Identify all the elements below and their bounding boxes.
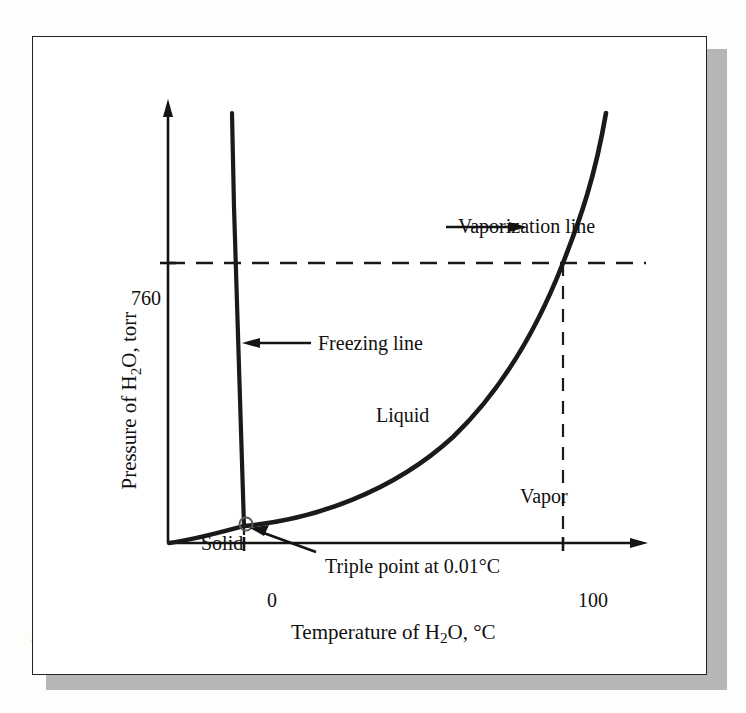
x-axis-arrowhead [630,538,648,548]
x-tick-label-100: 100 [578,589,608,612]
y-axis-title-subscript: 2 [128,368,144,376]
freezing-curve [232,113,244,526]
region-label-solid: Solid [201,532,243,555]
y-axis-title: Pressure of H2O, torr [117,291,144,511]
x-tick-label-0: 0 [267,589,277,612]
annotation-label-triple-point: Triple point at 0.01°C [325,555,500,578]
y-axis-title-suffix: O, torr [117,312,141,368]
x-axis-title-subscript: 2 [440,630,448,646]
x-axis-title-suffix: O, °C [448,620,496,644]
phase-diagram-figure: 760 0 100 Solid Liquid Vapor Freezing li… [32,36,707,675]
region-label-liquid: Liquid [376,404,429,427]
annotation-label-vaporization-line: Vaporization line [458,215,595,238]
x-axis-title-prefix: Temperature of H [291,620,440,644]
annotation-label-freezing-line: Freezing line [318,332,423,355]
x-axis-title: Temperature of H2O, °C [291,620,496,647]
y-axis-title-prefix: Pressure of H [117,375,141,489]
freezing-line-arrowhead [242,338,260,348]
region-label-vapor: Vapor [520,485,568,508]
y-axis-arrowhead [163,99,173,117]
vaporization-curve [244,113,606,526]
